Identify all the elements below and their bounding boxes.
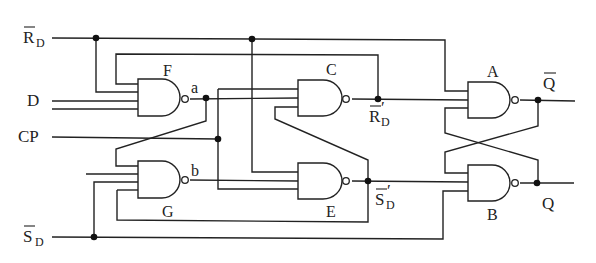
node-label-s-prime: S D ′ (375, 181, 395, 212)
svg-text:S: S (375, 190, 384, 209)
input-label-reset: R D (23, 27, 45, 50)
node-label-r-prime: R D ′ (369, 98, 390, 129)
svg-text:R: R (369, 107, 381, 126)
nand-gate-g: G (138, 161, 188, 220)
circuit-diagram: R D D CP S D (0, 0, 596, 263)
svg-text:D: D (381, 115, 390, 129)
node-label-b: b (191, 162, 199, 179)
svg-text:S: S (23, 227, 32, 246)
svg-text:Q: Q (543, 74, 555, 93)
svg-text:D: D (386, 198, 395, 212)
gate-label-c: C (326, 61, 337, 78)
nand-gate-b: B (468, 165, 518, 223)
output-label-q: Q (542, 194, 554, 213)
svg-text:D: D (36, 36, 45, 50)
node-label-a: a (191, 79, 198, 96)
svg-text:R: R (23, 28, 35, 47)
gate-label-a: A (487, 63, 499, 80)
gate-label-g: G (162, 203, 174, 220)
input-label-set: S D (23, 226, 44, 249)
input-label-clock: CP (18, 127, 39, 146)
gate-label-b: B (487, 206, 498, 223)
svg-text:′: ′ (381, 98, 385, 117)
nand-gate-e: E (298, 163, 349, 220)
gate-label-f: F (163, 62, 172, 79)
svg-text:D: D (35, 235, 44, 249)
svg-text:′: ′ (387, 181, 391, 200)
nand-gate-f: F (138, 62, 188, 116)
output-label-q-bar: Q (543, 73, 556, 93)
gate-label-e: E (326, 203, 336, 220)
nand-gate-a: A (468, 63, 518, 118)
input-label-data: D (27, 91, 39, 110)
nand-gate-c: C (298, 61, 349, 116)
